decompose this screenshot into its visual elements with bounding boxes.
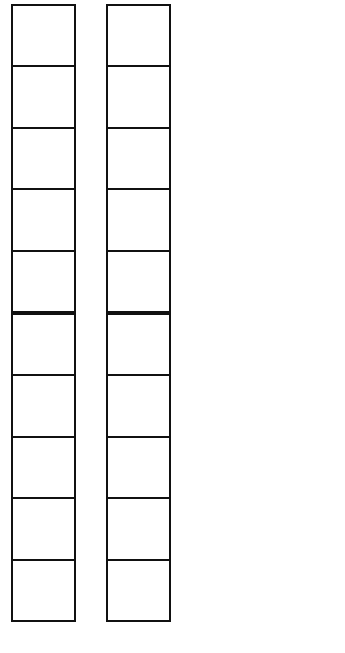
frame-cell-4 [108, 188, 169, 249]
frame-cell-5 [13, 250, 74, 311]
frame-cell-6 [13, 311, 74, 374]
frame-cell-1 [13, 6, 74, 65]
frame-cell-10 [13, 559, 74, 620]
ten-frame-strip-right [106, 4, 171, 622]
frame-cell-5 [108, 250, 169, 311]
frame-cell-7 [108, 374, 169, 435]
frame-cell-9 [108, 497, 169, 558]
ten-frame-strip-left [11, 4, 76, 622]
frame-cell-8 [13, 436, 74, 497]
frame-cell-2 [108, 65, 169, 126]
frame-cell-2 [13, 65, 74, 126]
frame-cell-8 [108, 436, 169, 497]
frame-cell-3 [13, 127, 74, 188]
frame-cell-3 [108, 127, 169, 188]
frame-cell-6 [108, 311, 169, 374]
frame-cell-10 [108, 559, 169, 620]
frame-cell-4 [13, 188, 74, 249]
frame-cell-1 [108, 6, 169, 65]
frame-cell-7 [13, 374, 74, 435]
frame-cell-9 [13, 497, 74, 558]
